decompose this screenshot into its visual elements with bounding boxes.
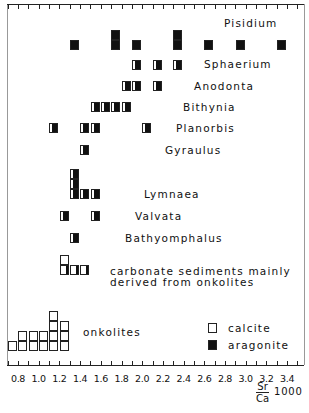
x-tick-label: 2.0 [135,373,149,384]
x-tick-label: 2.6 [197,373,211,384]
histogram-cell [29,331,38,341]
axis-tick [246,5,247,9]
histogram-cell [91,123,100,133]
axis-tick [18,5,19,9]
axis-tick [39,361,40,365]
histogram-cell [18,341,27,351]
axis-tick [90,5,91,9]
histogram-cell [91,102,100,112]
axis-tick [194,5,195,9]
histogram-cell [132,40,141,50]
label-planorbis: Planorbis [176,122,235,134]
histogram-cell [70,40,79,50]
label-pisidium: Pisidium [224,17,277,29]
label-sphaerium: Sphaerium [204,58,272,70]
histogram-cell [39,341,48,351]
x-tick-label: 2.4 [176,373,190,384]
histogram-cell [91,211,100,221]
histogram-cell [111,30,120,40]
axis-tick [132,5,133,9]
axis-tick [153,5,154,9]
axis-tick [297,361,298,365]
histogram-cell [60,321,69,331]
histogram-cell [49,321,58,331]
histogram-cell [80,123,89,133]
axis-tick [49,361,50,365]
axis-tick [277,5,278,9]
histogram-cell [8,341,17,351]
axis-tick [184,5,185,9]
legend-aragonite-swatch [208,340,217,350]
axis-tick [59,5,60,9]
axis-tick [256,5,257,9]
axis-tick [80,361,81,365]
histogram-cell [80,145,89,155]
x-tick-label: 1.2 [52,373,66,384]
label-carbonate-line2: derived from onkolites [110,276,254,288]
label-valvata: Valvata [135,210,182,222]
axis-tick [101,361,102,365]
axis-tick [8,5,9,9]
axis-tick [28,361,29,365]
histogram-cell [101,102,110,112]
histogram-cell [173,30,182,40]
histogram-cell [80,189,89,199]
histogram-cell [153,81,162,91]
x-axis-fraction: Sr Ca [256,381,269,404]
axis-tick [163,361,164,365]
axis-tick [59,361,60,365]
histogram-cell [70,233,79,243]
x-tick-label: 1.8 [114,373,128,384]
axis-tick [173,5,174,9]
x-tick-label: 1.0 [32,373,46,384]
histogram-cell [39,331,48,341]
axis-tick [142,361,143,365]
histogram-cell [91,189,100,199]
histogram-cell [60,211,69,221]
label-lymnaea: Lymnaea [144,188,200,200]
histogram-cell [204,40,213,50]
axis-tick [204,5,205,9]
axis-tick [266,5,267,9]
legend-aragonite-label: aragonite [228,339,289,351]
histogram-cell [111,102,120,112]
histogram-cell [70,265,79,275]
histogram-cell [60,265,69,275]
histogram-cell [49,341,58,351]
axis-tick [215,5,216,9]
axis-tick [297,5,298,9]
axis-tick [246,361,247,365]
label-gyraulus: Gyraulus [165,144,221,156]
axis-tick [235,5,236,9]
histogram-cell [132,60,141,70]
x-tick-label: 1.6 [94,373,108,384]
label-bathyomphalus: Bathyomphalus [125,232,223,244]
axis-tick [8,361,9,365]
bottom-axis-line [7,365,304,366]
axis-tick [49,5,50,9]
histogram-cell [142,123,151,133]
histogram-cell [173,60,182,70]
histogram-cell [80,265,89,275]
x-tick-label: 3.0 [239,373,253,384]
axis-tick [28,5,29,9]
axis-tick [90,361,91,365]
x-tick-label: 3.4 [280,373,294,384]
axis-tick [18,361,19,365]
axis-tick [163,5,164,9]
axis-tick [101,5,102,9]
axis-tick [277,361,278,365]
label-anodonta: Anodonta [194,80,254,92]
axis-tick [111,361,112,365]
label-onkolites: onkolites [83,326,141,338]
histogram-cell [60,331,69,341]
axis-tick [235,361,236,365]
x-tick-label: 0.8 [11,373,25,384]
histogram-cell [277,40,286,50]
histogram-cell [49,311,58,321]
axis-tick [173,361,174,365]
histogram-cell [49,123,58,133]
x-tick-label: 2.2 [156,373,170,384]
x-axis-multiplier: 1000 [274,386,303,397]
axis-tick [132,361,133,365]
